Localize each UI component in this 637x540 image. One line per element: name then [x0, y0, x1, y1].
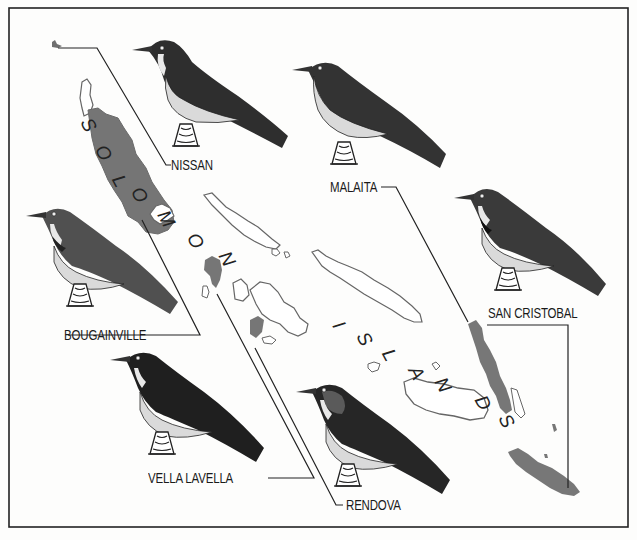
label-malaita: MALAITA [330, 180, 377, 194]
label-rendova: RENDOVA [346, 498, 401, 512]
island-nissan [52, 40, 62, 48]
island-san-cristobal [508, 448, 580, 496]
label-nissan: NISSAN [171, 158, 213, 172]
island-choiseul [204, 193, 280, 249]
island-rendova [250, 316, 264, 338]
label-san-cristobal: SAN CRISTOBAL [488, 306, 578, 320]
map-figure: S O L O M O N I S L A N D S NISSAN MALAI… [0, 0, 637, 540]
label-bougainville: BOUGAINVILLE [64, 328, 146, 342]
island-santa-isabel [312, 250, 422, 322]
label-vella-lavella: VELLA LAVELLA [148, 471, 233, 485]
island-new-georgia [233, 279, 308, 336]
map-canvas [0, 0, 637, 540]
birds [26, 40, 606, 494]
